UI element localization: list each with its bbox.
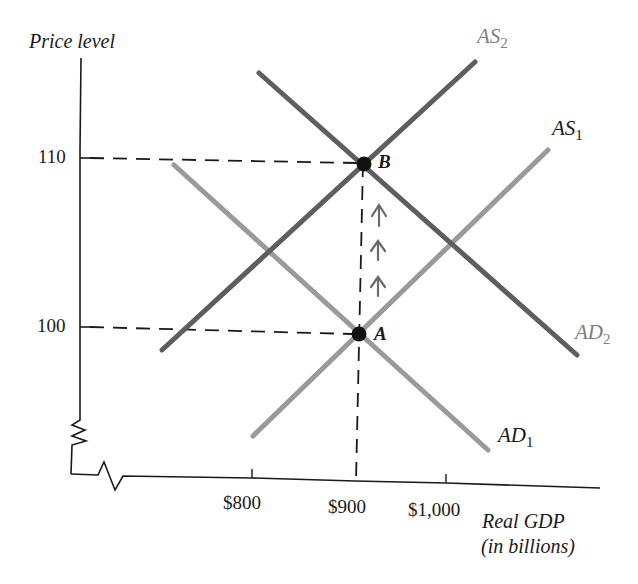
- as2-label-sub: 2: [500, 35, 508, 51]
- guide-110-dashed: [90, 158, 357, 163]
- guide-900-dashed: [356, 163, 363, 481]
- point-b-dot: [357, 157, 372, 172]
- y-tick-label-110: 110: [38, 146, 66, 168]
- ad1-curve: [174, 165, 488, 450]
- arrow-up-icon: [371, 277, 385, 296]
- x-tick-label-900: $900: [328, 496, 366, 518]
- as2-curve: [162, 62, 475, 350]
- x-axis: [71, 462, 600, 490]
- guide-100-dashed: [90, 327, 352, 334]
- as1-label-sub: 1: [575, 127, 583, 143]
- point-b-label: B: [378, 151, 391, 173]
- x-axis-title-line1: Real GDP: [482, 510, 565, 533]
- x-axis-title-line2: (in billions): [481, 535, 575, 558]
- point-a-dot: [352, 327, 367, 342]
- as1-label: AS1: [552, 116, 583, 144]
- point-a-label: A: [374, 323, 387, 345]
- ad1-label-sub: 1: [526, 434, 534, 450]
- ad1-label-text: AD: [498, 423, 526, 447]
- chart-root: Price level 110 100 $800 $900 $1,000 Rea…: [0, 0, 638, 584]
- shift-arrows: [371, 205, 386, 296]
- as2-label-text: AS: [477, 24, 500, 48]
- as2-label: AS2: [477, 24, 508, 52]
- y-axis-title: Price level: [29, 30, 115, 53]
- ad2-label-sub: 2: [603, 331, 611, 347]
- ad2-label: AD2: [575, 320, 611, 348]
- arrow-up-icon: [372, 205, 386, 226]
- y-axis: [71, 58, 86, 474]
- chart-canvas: [0, 0, 638, 584]
- x-tick-label-800: $800: [223, 492, 261, 514]
- y-tick-label-100: 100: [37, 315, 66, 337]
- ad1-label: AD1: [498, 423, 534, 451]
- x-tick-label-1000: $1,000: [408, 499, 460, 521]
- ad2-label-text: AD: [575, 320, 603, 344]
- as1-label-text: AS: [552, 116, 575, 140]
- arrow-up-icon: [371, 241, 385, 260]
